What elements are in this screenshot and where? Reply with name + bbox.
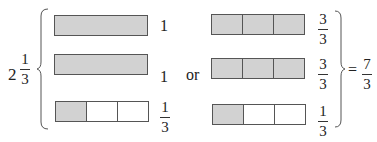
bar-cell-blank (244, 105, 275, 124)
mixed-whole: 2 (8, 67, 17, 83)
bar-cell-blank (275, 105, 305, 124)
bar-cell-shaded (213, 105, 244, 124)
right-bar-3-label: 1 3 (318, 104, 328, 139)
label-denominator: 3 (319, 77, 327, 92)
right-bar-1-label: 3 3 (318, 12, 328, 47)
result-fraction: 7 3 (362, 57, 372, 92)
label-denominator: 3 (319, 32, 327, 47)
right-bar-1 (211, 14, 305, 35)
bar-cell-shaded (274, 15, 304, 34)
fraction-bar (318, 121, 328, 122)
result-denominator: 3 (363, 77, 371, 92)
bar-cell-shaded (212, 15, 243, 34)
left-brace-icon (36, 8, 50, 130)
right-brace-icon (334, 10, 346, 128)
mixed-numerator: 1 (21, 52, 29, 67)
fraction-bar (318, 29, 328, 30)
bar-cell-shaded (243, 59, 274, 78)
label-numerator: 1 (161, 100, 169, 115)
bar-cell-shaded (55, 55, 147, 74)
result-numerator: 7 (363, 57, 371, 72)
fraction-bar (318, 74, 328, 75)
fraction-bar (20, 69, 30, 70)
bar-cell-shaded (212, 59, 243, 78)
fraction-bar (362, 74, 372, 75)
fraction-bar (160, 117, 170, 118)
left-bar-3 (55, 101, 149, 122)
equals-sign: = (348, 61, 357, 79)
label-numerator: 1 (319, 104, 327, 119)
left-bar-2 (54, 54, 148, 75)
label-numerator: 3 (319, 57, 327, 72)
bar-cell-blank (87, 102, 118, 121)
right-bar-3 (212, 104, 306, 125)
label-denominator: 3 (161, 120, 169, 135)
mixed-number: 2 1 3 (6, 52, 36, 96)
mixed-denominator: 3 (21, 72, 29, 87)
bar-cell-shaded (243, 15, 274, 34)
bar-cell-shaded (56, 102, 87, 121)
left-bar-1 (54, 15, 148, 36)
right-bar-2 (211, 58, 305, 79)
label-numerator: 3 (319, 12, 327, 27)
bar-cell-shaded (55, 16, 147, 35)
left-bar-3-label: 1 3 (160, 100, 170, 135)
mixed-fraction: 1 3 (20, 52, 30, 87)
bar-cell-shaded (274, 59, 304, 78)
left-bar-2-label: 1 (160, 69, 168, 85)
right-bar-2-label: 3 3 (318, 57, 328, 92)
bar-cell-blank (118, 102, 148, 121)
or-connector: or (186, 66, 199, 84)
left-bar-1-label: 1 (160, 18, 168, 34)
label-denominator: 3 (319, 124, 327, 139)
